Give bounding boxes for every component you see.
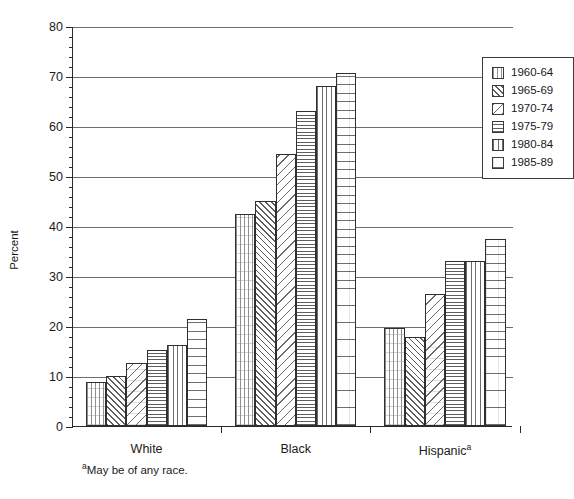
y-tick-minor (69, 37, 74, 38)
legend-swatch-icon (492, 67, 504, 79)
y-tick-minor (69, 397, 74, 398)
legend-swatch-icon (492, 103, 504, 115)
y-tick-label: 20 (23, 320, 63, 334)
legend-item-1960-64[interactable]: 1960-64 (483, 64, 573, 82)
y-tick-minor (69, 197, 74, 198)
legend-item-label: 1965-69 (511, 85, 553, 97)
bar (384, 328, 404, 427)
bar (235, 214, 255, 427)
bar (316, 86, 336, 426)
x-group-separator-tick (221, 426, 222, 433)
legend-item-label: 1960-64 (511, 67, 553, 79)
legend-item-label: 1970-74 (511, 103, 553, 115)
bar (106, 376, 126, 426)
legend-swatch-icon (492, 139, 504, 151)
legend-item-1985-89[interactable]: 1985-89 (483, 154, 573, 172)
y-tick-minor (69, 117, 74, 118)
y-tick-minor (69, 267, 74, 268)
legend-swatch-icon (492, 85, 504, 97)
y-tick-minor (69, 107, 74, 108)
y-tick-minor (69, 57, 74, 58)
legend-item-label: 1985-89 (511, 157, 553, 169)
y-tick-major (66, 277, 73, 278)
y-tick-minor (69, 417, 74, 418)
x-group-label-white: White (131, 442, 163, 456)
x-group-label-hispanic: Hispanica (419, 442, 472, 458)
y-tick-label: 70 (23, 70, 63, 84)
y-tick-minor (69, 407, 74, 408)
legend-swatch-icon (492, 121, 504, 133)
legend-item-1970-74[interactable]: 1970-74 (483, 100, 573, 118)
bar (255, 201, 275, 426)
y-tick-major (66, 327, 73, 328)
y-axis-title: Percent (8, 230, 20, 270)
y-tick-label: 40 (23, 220, 63, 234)
y-tick-minor (69, 157, 74, 158)
y-tick-major (66, 27, 73, 28)
y-tick-minor (69, 287, 74, 288)
y-tick-minor (69, 47, 74, 48)
y-tick-minor (69, 307, 74, 308)
y-tick-major (66, 127, 73, 128)
legend-swatch-icon (492, 157, 504, 169)
bar (445, 261, 465, 427)
legend-item-label: 1975-79 (511, 121, 553, 133)
x-group-separator-tick (520, 426, 521, 433)
bar (425, 294, 445, 427)
bar (405, 337, 425, 426)
bar (336, 73, 356, 427)
legend: 1960-641965-691970-741975-791980-841985-… (482, 57, 574, 179)
legend-item-1980-84[interactable]: 1980-84 (483, 136, 573, 154)
y-tick-label: 0 (23, 420, 63, 434)
y-tick-label: 80 (23, 20, 63, 34)
y-tick-label: 60 (23, 120, 63, 134)
bar (296, 111, 316, 426)
plot-area: 01020304050607080 WhiteBlackHispanica 19… (72, 27, 512, 427)
y-tick-label: 50 (23, 170, 63, 184)
y-tick-minor (69, 187, 74, 188)
y-tick-minor (69, 367, 74, 368)
y-tick-minor (69, 217, 74, 218)
y-tick-major (66, 177, 73, 178)
y-tick-minor (69, 87, 74, 88)
legend-item-1965-69[interactable]: 1965-69 (483, 82, 573, 100)
bar (187, 319, 207, 427)
legend-item-1975-79[interactable]: 1975-79 (483, 118, 573, 136)
bar (485, 239, 505, 427)
x-group-separator-tick (370, 426, 371, 433)
footnote: aMay be of any race. (82, 461, 188, 476)
y-tick-minor (69, 387, 74, 388)
y-tick-minor (69, 167, 74, 168)
y-tick-minor (69, 97, 74, 98)
y-tick-minor (69, 317, 74, 318)
legend-item-label: 1980-84 (511, 139, 553, 151)
x-label-footnote-marker: a (467, 442, 472, 452)
bar (276, 154, 296, 427)
bar (126, 363, 146, 427)
y-tick-major (66, 427, 73, 428)
bar (86, 382, 106, 426)
y-tick-minor (69, 297, 74, 298)
bar-group-white (86, 27, 207, 426)
bar (465, 261, 485, 427)
y-tick-minor (69, 207, 74, 208)
bar-group-black (235, 27, 356, 426)
y-tick-minor (69, 357, 74, 358)
y-tick-minor (69, 257, 74, 258)
bar (167, 345, 187, 426)
y-tick-major (66, 377, 73, 378)
y-tick-minor (69, 147, 74, 148)
bar (147, 350, 167, 426)
x-group-label-black: Black (281, 442, 312, 456)
y-tick-major (66, 227, 73, 228)
y-tick-minor (69, 347, 74, 348)
y-tick-minor (69, 237, 74, 238)
footnote-text: May be of any race. (87, 464, 188, 476)
y-tick-minor (69, 67, 74, 68)
y-tick-label: 10 (23, 370, 63, 384)
y-tick-minor (69, 137, 74, 138)
y-tick-minor (69, 337, 74, 338)
y-tick-label: 30 (23, 270, 63, 284)
y-tick-minor (69, 247, 74, 248)
